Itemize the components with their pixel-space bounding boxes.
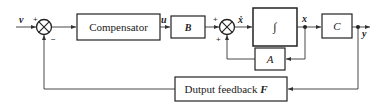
sum1-minus-sign: − bbox=[51, 35, 56, 44]
arrow-feedback-to-sum1 bbox=[44, 35, 175, 89]
input-label-v: v bbox=[19, 14, 24, 25]
b-label: B bbox=[184, 22, 192, 33]
block-diagram: v + − Compensator u B + + ẋ ∫ x C y A bbox=[0, 0, 385, 105]
feedback-label-text: Dutput feedback bbox=[184, 83, 257, 95]
c-label: C bbox=[333, 20, 341, 32]
integrator-symbol: ∫ bbox=[272, 20, 277, 34]
sum2-plus-sign-bottom: + bbox=[216, 35, 221, 44]
summing-junction-1 bbox=[37, 20, 52, 35]
compensator-label: Compensator bbox=[89, 21, 148, 33]
output-label-y: y bbox=[361, 28, 367, 39]
control-label-u: u bbox=[161, 14, 167, 25]
arrow-a-to-sum2 bbox=[227, 35, 255, 59]
summing-junction-2 bbox=[220, 20, 235, 35]
a-label: A bbox=[266, 53, 274, 65]
state-derivative-label: ẋ bbox=[237, 14, 243, 25]
sum1-plus-sign: + bbox=[33, 15, 38, 24]
feedback-symbol-f: F bbox=[259, 83, 268, 95]
sum2-plus-sign-top: + bbox=[213, 15, 218, 24]
feedback-label: Dutput feedback F bbox=[184, 83, 268, 95]
state-label-x: x bbox=[301, 13, 307, 24]
